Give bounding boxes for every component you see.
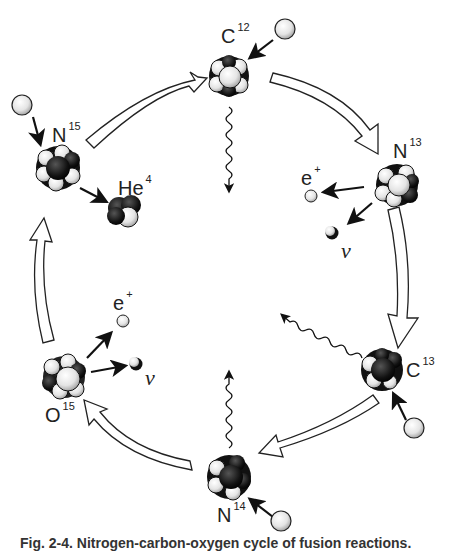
label-positron-n13: e+ bbox=[301, 168, 321, 188]
label-positron-o15: e+ bbox=[113, 293, 133, 313]
nucleus-n13 bbox=[375, 164, 419, 207]
arrow-c13-to-n14 bbox=[259, 395, 379, 457]
proton-arrow-n14 bbox=[251, 500, 273, 517]
gamma-ray-c12 bbox=[226, 107, 232, 191]
label-he4: He4 bbox=[118, 178, 152, 198]
proton-arrow-c12 bbox=[251, 40, 273, 57]
arrow-n14-to-o15 bbox=[84, 400, 192, 470]
neutrino-arrow-n13 bbox=[350, 203, 372, 222]
protons bbox=[12, 19, 424, 531]
arrow-n13-to-c13 bbox=[388, 207, 418, 348]
gamma-rays bbox=[226, 107, 362, 448]
nucleus-n15 bbox=[36, 145, 80, 191]
cycle-arrows bbox=[30, 72, 418, 470]
proton-arrow-n15 bbox=[33, 117, 40, 143]
neutrino-n13 bbox=[325, 226, 339, 240]
proton-n15 bbox=[12, 95, 32, 115]
figure-caption: Fig. 2-4. Nitrogen-carbon-oxygen cycle o… bbox=[20, 535, 450, 551]
nucleus-c12 bbox=[209, 55, 249, 97]
label-o15: O15 bbox=[45, 405, 75, 425]
label-n13: N13 bbox=[393, 141, 422, 161]
positron-arrow-n13 bbox=[325, 187, 364, 192]
he4-arrow bbox=[80, 188, 105, 201]
proton-c13 bbox=[404, 418, 424, 438]
neutrino-o15 bbox=[129, 357, 143, 371]
neutrino-arrow-o15 bbox=[91, 366, 124, 372]
arrow-c12-to-n13 bbox=[270, 73, 378, 154]
label-neutrino-o15: ν bbox=[145, 367, 155, 389]
label-n14: N14 bbox=[217, 505, 246, 525]
positron-arrow-o15 bbox=[87, 334, 110, 358]
nucleus-o15 bbox=[42, 354, 86, 399]
proton-n14 bbox=[271, 511, 291, 531]
arrow-o15-to-n15 bbox=[30, 218, 54, 343]
label-c13: C13 bbox=[406, 360, 435, 380]
nucleus-c13 bbox=[361, 348, 403, 391]
positrons bbox=[117, 190, 317, 327]
proton-c12 bbox=[275, 19, 295, 39]
gamma-ray-c13 bbox=[282, 315, 362, 358]
arrow-n15-to-c12 bbox=[86, 72, 207, 148]
label-c12: C12 bbox=[221, 26, 250, 46]
nucleus-he4 bbox=[107, 195, 141, 227]
label-n15: N15 bbox=[52, 125, 81, 145]
label-neutrino-n13: ν bbox=[341, 240, 351, 262]
nucleus-n14 bbox=[207, 455, 251, 500]
neutrinos bbox=[129, 226, 339, 371]
positron-o15 bbox=[117, 315, 129, 327]
gamma-ray-n14 bbox=[226, 372, 232, 448]
positron-n13 bbox=[305, 190, 317, 202]
proton-arrow-c13 bbox=[394, 395, 406, 420]
